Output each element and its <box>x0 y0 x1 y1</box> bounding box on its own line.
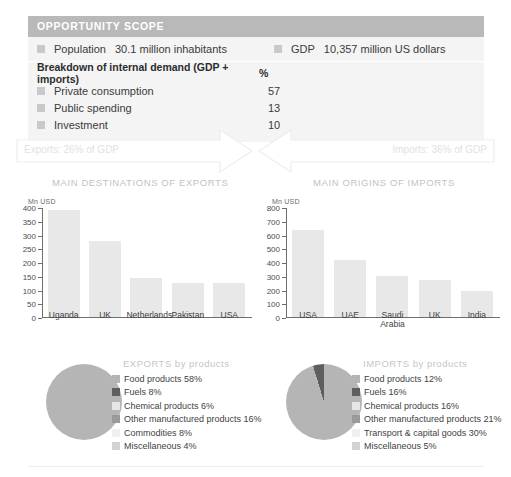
legend-item: Fuels 8% <box>112 386 302 400</box>
y-tick-mark <box>38 236 42 237</box>
y-tick-label: 0 <box>14 314 36 323</box>
legend-swatch-icon <box>112 442 120 450</box>
imports-share-label: Imports: 36% of GDP <box>393 144 487 155</box>
bars-group-exports <box>43 208 250 317</box>
bar-chart-exports-plot: 050100150200250300350400 <box>14 208 254 318</box>
bullet-square-icon <box>274 45 282 53</box>
legend-label: Other manufactured products 16% <box>124 414 262 424</box>
y-tick-label: 250 <box>14 245 36 254</box>
legend-label: Food products 12% <box>364 374 442 384</box>
y-tick-mark <box>282 277 286 278</box>
breakdown-row: Private consumption 57 <box>28 82 484 99</box>
bullet-square-icon <box>37 104 45 112</box>
bars-group-imports <box>287 208 498 317</box>
y-tick-mark <box>38 277 42 278</box>
y-tick-label: 300 <box>258 272 280 281</box>
legend-swatch-icon <box>112 429 120 437</box>
y-tick-label: 200 <box>258 286 280 295</box>
legend-item: Chemical products 6% <box>112 399 302 413</box>
bullet-square-icon <box>37 87 45 95</box>
y-tick-label: 0 <box>258 314 280 323</box>
legend-label: Chemical products 16% <box>364 401 459 411</box>
stat-population-label: Population <box>54 43 106 55</box>
legend-label: Fuels 16% <box>364 387 407 397</box>
bullet-square-icon <box>37 45 45 53</box>
breakdown-unit-label: % <box>259 67 268 79</box>
y-tick-label: 800 <box>258 204 280 213</box>
legend-swatch-icon <box>112 402 120 410</box>
breakdown-label-private-consumption: Private consumption <box>54 85 268 97</box>
stat-gdp: GDP 10,357 million US dollars <box>266 37 446 61</box>
y-tick-label: 500 <box>258 245 280 254</box>
stat-population-value: 30.1 million inhabitants <box>115 43 227 55</box>
x-tick-label: Uganda <box>44 311 84 320</box>
legend-item: Other manufactured products 21% <box>352 413 511 427</box>
bottom-divider <box>28 466 484 467</box>
stat-population: Population 30.1 million inhabitants <box>28 37 266 61</box>
bar <box>292 230 324 317</box>
y-tick-mark <box>38 263 42 264</box>
scope-top-stats-row: Population 30.1 million inhabitants GDP … <box>28 37 484 62</box>
legend-item: Food products 58% <box>112 372 302 386</box>
legend-label: Miscellaneous 5% <box>364 441 437 451</box>
y-tick-mark <box>282 291 286 292</box>
y-tick-mark <box>38 304 42 305</box>
y-tick-mark <box>282 222 286 223</box>
legend-label: Other manufactured products 21% <box>364 414 502 424</box>
x-tick-label: Saudi Arabia <box>372 311 412 329</box>
legend-item: Other manufactured products 16% <box>112 413 302 427</box>
legend-item: Fuels 16% <box>352 386 511 400</box>
legend-swatch-icon <box>112 388 120 396</box>
section-title-exports: MAIN DESTINATIONS OF EXPORTS <box>52 177 228 188</box>
breakdown-value-private-consumption: 57 <box>268 85 280 97</box>
legend-swatch-icon <box>352 442 360 450</box>
breakdown-value-public-spending: 13 <box>268 102 280 114</box>
legend-label: Food products 58% <box>124 374 202 384</box>
legend-item: Chemical products 16% <box>352 399 511 413</box>
legend-swatch-icon <box>112 415 120 423</box>
legend-item: Miscellaneous 4% <box>112 440 302 454</box>
x-axis-labels-imports: USAUAESaudi ArabiaUKIndia <box>287 311 498 329</box>
trade-flow-arrows: Exports: 26% of GDP Imports: 36% of GDP <box>0 128 511 174</box>
y-tick-label: 50 <box>14 300 36 309</box>
x-tick-label: UK <box>415 311 455 329</box>
y-axis-unit-exports: Mn USD <box>28 198 254 205</box>
legend-swatch-icon <box>352 429 360 437</box>
legend-items-exports: Food products 58%Fuels 8%Chemical produc… <box>112 372 302 453</box>
x-tick-label: UK <box>85 311 125 320</box>
legend-label: Miscellaneous 4% <box>124 441 197 451</box>
bar <box>48 210 80 317</box>
y-tick-label: 700 <box>258 217 280 226</box>
legend-swatch-icon <box>352 402 360 410</box>
x-tick-label: USA <box>288 311 328 329</box>
x-tick-label: Netherlands <box>126 311 166 320</box>
y-tick-mark <box>282 318 286 319</box>
y-tick-label: 100 <box>14 286 36 295</box>
bar <box>334 260 366 317</box>
y-tick-mark <box>282 263 286 264</box>
pie-chart-exports <box>46 364 122 440</box>
pie-chart-imports <box>286 364 362 440</box>
breakdown-title: Breakdown of internal demand (GDP + impo… <box>37 61 259 85</box>
exports-share-label: Exports: 26% of GDP <box>24 144 119 155</box>
bar <box>89 241 121 317</box>
y-tick-label: 600 <box>258 231 280 240</box>
y-tick-label: 400 <box>258 259 280 268</box>
y-tick-mark <box>282 249 286 250</box>
x-tick-label: India <box>457 311 497 329</box>
x-tick-label: UAE <box>330 311 370 329</box>
legend-item: Transport & capital goods 30% <box>352 426 511 440</box>
breakdown-label-public-spending: Public spending <box>54 102 268 114</box>
section-title-imports: MAIN ORIGINS OF IMPORTS <box>313 177 455 188</box>
y-tick-mark <box>282 208 286 209</box>
opportunity-scope-panel: OPPORTUNITY SCOPE Population 30.1 millio… <box>28 16 484 142</box>
y-tick-label: 400 <box>14 204 36 213</box>
legend-swatch-icon <box>352 375 360 383</box>
bar-chart-imports: Mn USD 0100200300400500600700800 USAUAES… <box>258 198 502 318</box>
y-tick-mark <box>38 318 42 319</box>
legend-exports: EXPORTS by products Food products 58%Fue… <box>112 358 302 453</box>
legend-label: Commodities 8% <box>124 428 192 438</box>
legend-item: Commodities 8% <box>112 426 302 440</box>
legend-items-imports: Food products 12%Fuels 16%Chemical produ… <box>352 372 511 453</box>
legend-title-imports: IMPORTS by products <box>363 358 511 369</box>
